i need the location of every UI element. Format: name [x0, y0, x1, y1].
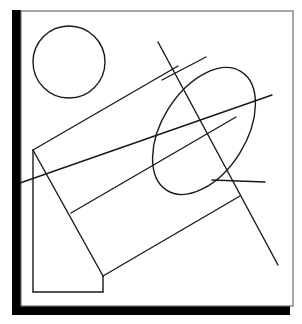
drawing-canvas: Technical line drawing: oblique cylinder… [0, 0, 302, 324]
paper-frame-rectangle [21, 11, 293, 306]
shadow-left-bar [12, 10, 21, 315]
figure-svg: Technical line drawing: oblique cylinder… [0, 0, 302, 324]
shadow-bottom-bar [12, 306, 290, 315]
